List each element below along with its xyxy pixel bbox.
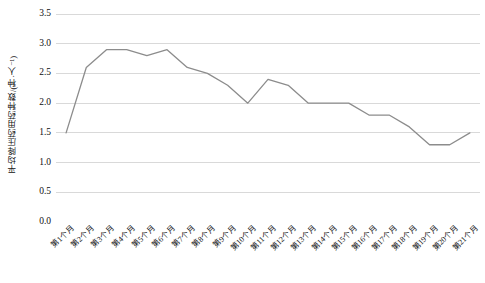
plot-svg xyxy=(56,14,480,222)
y-axis-tick-label: 1.5 xyxy=(39,128,51,138)
y-axis-tick-label: 1.0 xyxy=(39,158,51,168)
line-chart-figure: 平均降压药用药种数/(种·人⁻¹) 0.00.51.01.52.02.53.03… xyxy=(0,0,485,283)
data-series-line xyxy=(66,50,470,145)
x-axis-tick-labels: 第1个月第2个月第3个月第4个月第5个月第6个月第7个月第8个月第9个月第10个… xyxy=(56,222,480,283)
y-axis-tick-label: 3.0 xyxy=(39,39,51,49)
y-axis-tick-label: 0.5 xyxy=(39,188,51,198)
y-axis-tick-labels: 0.00.51.01.52.02.53.03.5 xyxy=(26,14,54,222)
y-axis-title-label: 平均降压药用药种数/(种·人⁻¹) xyxy=(9,56,18,173)
gridlines-group xyxy=(56,14,480,222)
data-series-group xyxy=(66,50,470,145)
y-axis-title: 平均降压药用药种数/(种·人⁻¹) xyxy=(0,0,26,228)
y-axis-tick-label: 3.5 xyxy=(39,9,51,19)
y-axis-tick-label: 0.0 xyxy=(39,217,51,227)
plot-area xyxy=(56,14,480,222)
y-axis-tick-label: 2.5 xyxy=(39,69,51,79)
y-axis-tick-label: 2.0 xyxy=(39,98,51,108)
